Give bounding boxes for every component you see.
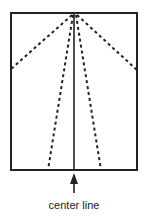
dashed-fold-left-bottom bbox=[48, 15, 73, 170]
dashed-fold-right-edge bbox=[77, 15, 137, 70]
dashed-fold-left-edge bbox=[11, 15, 72, 69]
center-line-label: center line bbox=[0, 199, 148, 211]
fold-diagram bbox=[0, 0, 148, 217]
dashed-fold-right-bottom bbox=[76, 15, 101, 170]
arrow-up-icon bbox=[70, 173, 78, 193]
